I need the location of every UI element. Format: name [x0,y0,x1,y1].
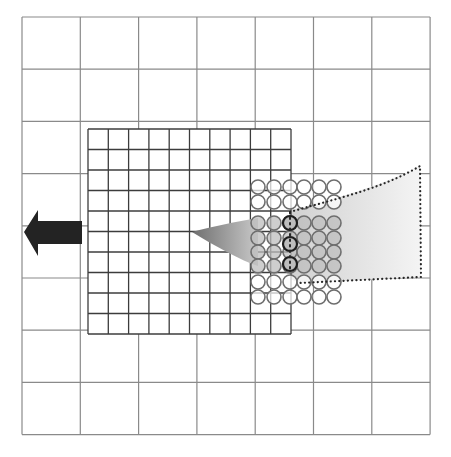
circle-node [312,245,326,259]
circle-node [312,231,326,245]
circle-node [312,290,326,304]
circle-node [312,259,326,273]
circle-node [297,245,311,259]
circle-node [297,195,311,209]
circle-node [251,275,265,289]
circle-node [327,259,341,273]
circle-node [312,216,326,230]
left-arrow-icon [24,210,82,256]
circle-node [251,290,265,304]
circle-node [297,180,311,194]
circle-node [327,231,341,245]
circle-node [251,259,265,273]
circle-node [283,275,297,289]
circle-node [297,216,311,230]
circle-node [327,180,341,194]
circle-node [267,290,281,304]
circle-node [327,216,341,230]
circle-node [267,180,281,194]
circle-node [297,290,311,304]
diagram-canvas [0,0,451,457]
circle-node [251,180,265,194]
circle-node [297,231,311,245]
circle-node [283,180,297,194]
circle-node [297,259,311,273]
diagram-svg [0,0,451,457]
circle-node [267,245,281,259]
circle-node [267,275,281,289]
circle-node [267,259,281,273]
circle-node [251,245,265,259]
circle-node [327,245,341,259]
circle-node [327,290,341,304]
circle-node [327,195,341,209]
circle-node [251,216,265,230]
circle-node [312,180,326,194]
circle-node [267,231,281,245]
circle-node [283,195,297,209]
circle-node [251,195,265,209]
circle-node [267,216,281,230]
circle-node [251,231,265,245]
circle-node [267,195,281,209]
circle-node [283,290,297,304]
